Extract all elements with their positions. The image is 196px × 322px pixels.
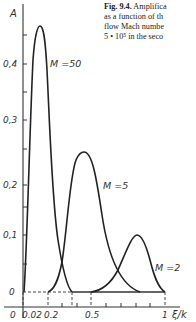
y-tick-label: 0,2 — [3, 180, 18, 190]
x-tick-label: 0.2 — [44, 310, 59, 320]
x-tick-label: 1 — [162, 310, 168, 320]
curve-m5 — [48, 152, 140, 292]
y-tick-label: 0,4 — [3, 59, 18, 69]
x-axis-label: ξ/k — [171, 309, 188, 320]
curve-label-m2: M =2 — [155, 262, 180, 273]
y-axis-label: A — [9, 8, 17, 19]
x-tick-label: 0.02 — [22, 310, 42, 320]
x-ticks — [62, 303, 150, 307]
x-tick-label: 0.5 — [85, 310, 100, 320]
y-tick-label: 0,1 — [3, 230, 17, 240]
curve-label-m50: M =50 — [50, 58, 81, 69]
y-tick-label: 0 — [9, 287, 15, 297]
x-tick-label: 0 — [10, 310, 16, 320]
amplification-chart: 0,4 0,3 0,2 0,1 0 A 0 0.02 0.2 0.5 1 ξ/k… — [0, 0, 196, 322]
curve-label-m5: M =5 — [103, 180, 128, 191]
dashed-guides — [23, 292, 165, 307]
y-tick-label: 0,3 — [3, 115, 18, 125]
